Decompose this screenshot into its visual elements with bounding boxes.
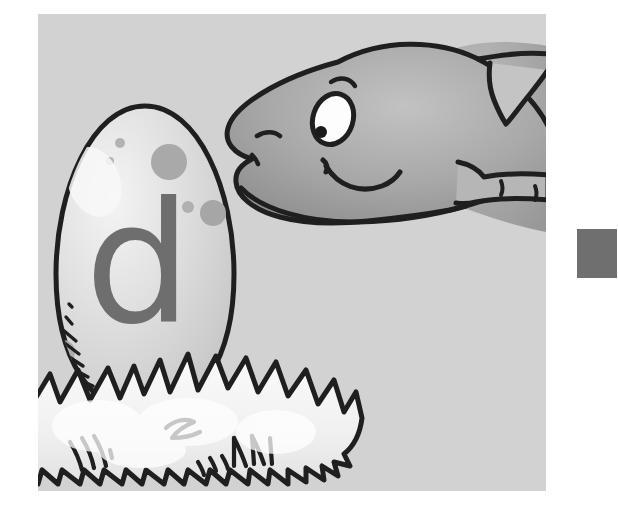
dinosaur-leg-claw-mark-1: [501, 181, 503, 195]
gray-color-swatch: [577, 229, 617, 278]
egg-letter-d: d: [85, 166, 192, 362]
dinosaur-leg-claw-mark-2: [535, 186, 537, 200]
egg-spot: [115, 138, 125, 148]
illustration-panel: d: [38, 14, 546, 491]
illustration-artwork: d: [38, 14, 546, 491]
page-canvas: d: [0, 0, 618, 515]
egg-spot: [200, 200, 226, 226]
dinosaur-eye-pupil: [315, 126, 327, 138]
